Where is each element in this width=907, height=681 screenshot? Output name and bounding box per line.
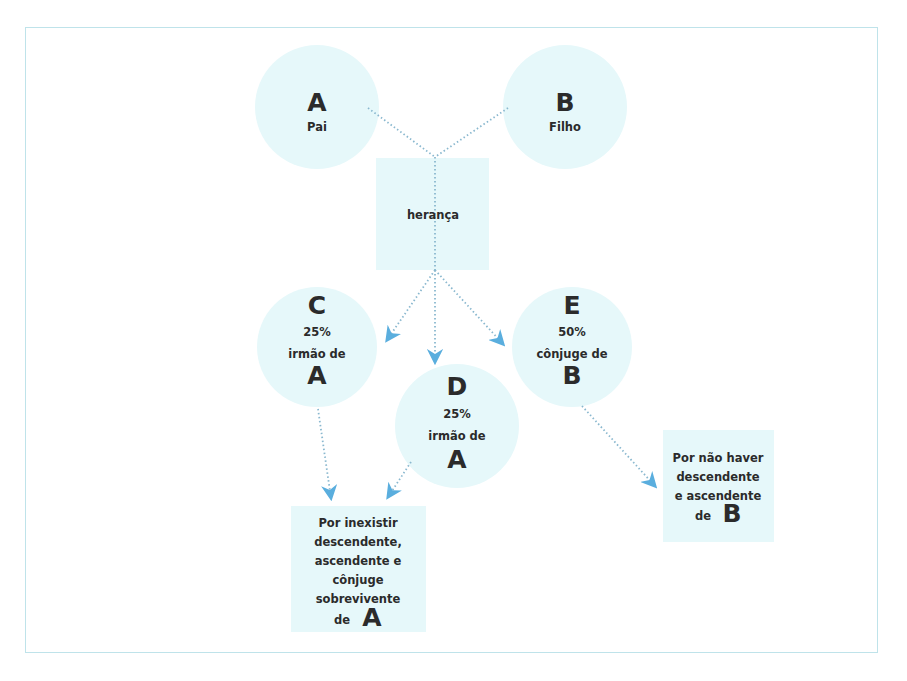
note-b-ref: B <box>722 499 741 528</box>
inheritance-diagram: A Pai B Filho herança C 25% irmão de A E… <box>0 0 907 681</box>
node-d-percent: 25% <box>443 407 471 421</box>
note-a-line-3: ascendente e <box>315 554 402 568</box>
node-d-ref: A <box>447 445 467 474</box>
note-b-line-3: e ascendente <box>675 489 762 503</box>
node-a-label: Pai <box>307 120 327 134</box>
note-b-line-2: descendente <box>676 470 759 484</box>
note-b-box <box>663 430 774 542</box>
node-b-label: Filho <box>549 120 581 134</box>
note-a-ref: A <box>362 603 382 632</box>
node-d-letter: D <box>447 372 468 401</box>
node-a-letter: A <box>307 88 327 117</box>
node-b-letter: B <box>555 88 574 117</box>
node-c-ref: A <box>307 361 327 390</box>
edge-d-note-a <box>388 462 411 497</box>
note-a-line-5: sobrevivente <box>316 592 401 606</box>
node-heranca-label: herança <box>407 208 459 222</box>
note-b-last-prefix: de <box>695 509 711 523</box>
edge-heranca-e <box>435 270 503 344</box>
node-e-relation: cônjuge de <box>536 347 607 361</box>
edge-a-heranca <box>368 108 435 157</box>
edge-c-note-a <box>318 409 331 498</box>
edge-e-note-b <box>582 406 655 486</box>
edge-b-heranca <box>435 108 508 157</box>
node-c-letter: C <box>308 291 326 320</box>
node-e-percent: 50% <box>558 325 586 339</box>
note-a-line-4: cônjuge <box>332 573 383 587</box>
node-d-relation: irmão de <box>428 429 485 443</box>
note-b-line-1: Por não haver <box>673 451 764 465</box>
node-e-ref: B <box>562 361 581 390</box>
note-a-line-1: Por inexistir <box>318 516 398 530</box>
node-e-letter: E <box>563 291 580 320</box>
note-a-last-prefix: de <box>334 613 350 627</box>
node-c-relation: irmão de <box>288 347 345 361</box>
node-c-percent: 25% <box>303 325 331 339</box>
edge-heranca-c <box>387 270 435 340</box>
note-a-line-2: descendente, <box>314 535 402 549</box>
